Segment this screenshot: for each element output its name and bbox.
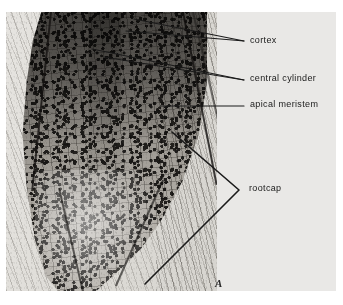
label-central-cylinder: central cylinder — [250, 74, 316, 83]
plate-letter: A — [215, 277, 222, 289]
leader-rootcap-bracket — [145, 132, 239, 284]
label-rootcap: rootcap — [249, 184, 281, 193]
annotation-leader-lines — [0, 0, 343, 305]
label-cortex: cortex — [250, 36, 277, 45]
leader-central-cylinder-1 — [92, 49, 244, 80]
leader-cortex-1 — [134, 19, 244, 41]
leader-central-cylinder-2 — [104, 57, 244, 80]
figure-root-tip-micrograph: cortex central cylinder apical meristem … — [0, 0, 343, 305]
leader-cortex-2 — [126, 31, 244, 41]
label-apical-meristem: apical meristem — [250, 100, 318, 109]
